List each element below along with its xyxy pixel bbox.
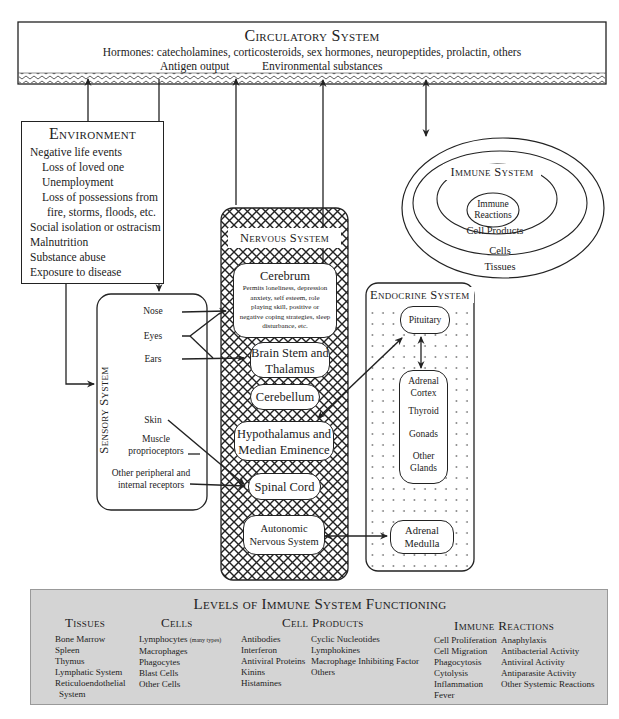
- environment-item: Unemployment: [30, 175, 163, 190]
- pituitary-box: Pituitary: [400, 306, 450, 334]
- column-heading: Tissues: [65, 615, 125, 631]
- list-item: Inflammation: [434, 679, 498, 690]
- levels-column-tissues: Tissues Bone Marrow Spleen Thymus Lympha…: [55, 615, 125, 700]
- environment-item: Negative life events: [30, 145, 163, 160]
- levels-panel: Levels of Immune System Functioning Tiss…: [30, 589, 608, 705]
- gland-thyroid: Thyroid: [400, 405, 447, 428]
- list-item: Other Systemic Reactions: [501, 679, 594, 690]
- environment-title: Environment: [22, 125, 163, 143]
- environment-item: Exposure to disease: [30, 265, 163, 280]
- sensory-muscle: Muscle proprioceptors: [125, 433, 187, 457]
- brain-stem-box: Brain Stem and Thalamus: [250, 342, 330, 378]
- list-item: Lymphocytes: [139, 634, 188, 644]
- immune-core-line2: Reactions: [468, 210, 518, 221]
- levels-title: Levels of Immune System Functioning: [31, 596, 609, 613]
- list-item: Antiviral Activity: [501, 657, 594, 668]
- list-item: Phagocytosis: [434, 657, 498, 668]
- list-item: Macrophage Inhibiting Factor: [311, 656, 419, 667]
- gland-gonads: Gonads: [400, 428, 447, 450]
- cerebellum-box: Cerebellum: [250, 384, 320, 410]
- immune-core-label: Immune Reactions: [468, 199, 518, 221]
- gland-adrenal-cortex: Adrenal Cortex: [400, 375, 447, 405]
- list-item: Thymus: [55, 656, 125, 667]
- list-item: Macrophages: [139, 646, 221, 657]
- sensory-system-title: Sensory System: [96, 350, 112, 470]
- list-item: Cell Proliferation: [434, 635, 498, 646]
- environment-item: Social isolation or ostracism: [30, 220, 163, 235]
- column-heading: Immune Reactions: [454, 618, 609, 634]
- immune-cell-products-label: Cell Products: [445, 224, 545, 237]
- levels-column-cells: Cells Lymphocytes (many types) Macrophag…: [139, 615, 221, 690]
- list-item: Kinins: [241, 667, 305, 678]
- list-item: Reticuloendothelial: [55, 678, 125, 689]
- environment-item: Loss of loved one: [30, 160, 163, 175]
- gland-other: Other Glands: [409, 450, 439, 474]
- immune-system-title: Immune System: [443, 164, 541, 180]
- hypothalamus-box: Hypothalamus and Median Eminence: [234, 421, 334, 461]
- cerebrum-box: Cerebrum Permits loneliness, depression …: [233, 263, 337, 338]
- list-item: Anaphylaxis: [501, 635, 594, 646]
- list-item: Histamines: [241, 678, 305, 689]
- list-item: Interferon: [241, 645, 305, 656]
- list-item: Antibodies: [241, 634, 305, 645]
- levels-column-cell-products: Cell Products Antibodies Interferon Anti…: [241, 615, 441, 689]
- list-item: Bone Marrow: [55, 634, 125, 645]
- sensory-ears: Ears: [128, 353, 178, 365]
- list-item: Fever: [434, 690, 498, 701]
- list-item-note: (many types): [190, 637, 222, 643]
- list-item: Antiparasite Activity: [501, 668, 594, 679]
- environment-item: Substance abuse: [30, 250, 163, 265]
- environmental-substances-label: Environmental substances: [262, 59, 382, 74]
- spinal-cord-box: Spinal Cord: [248, 473, 321, 500]
- sensory-nose: Nose: [128, 305, 178, 317]
- list-item: System: [55, 689, 125, 700]
- levels-column-immune-reactions: Immune Reactions Cell Proliferation Cell…: [434, 618, 609, 701]
- environment-item: Loss of possessions from: [30, 190, 163, 205]
- list-item: Blast Cells: [139, 668, 221, 679]
- list-item: Antibacterial Activity: [501, 646, 594, 657]
- list-item: Lymphokines: [311, 645, 419, 656]
- list-item: Cell Migration: [434, 646, 498, 657]
- list-item: Other Cells: [139, 679, 221, 690]
- immune-core-line1: Immune: [468, 199, 518, 210]
- sensory-other-receptors: Other peripheral and internal receptors: [107, 467, 195, 491]
- circulatory-wave-band: [19, 73, 605, 83]
- column-heading: Cells: [161, 615, 221, 631]
- circulatory-hormones: Hormones: catecholamines, corticosteroid…: [18, 45, 606, 60]
- cerebrum-description: Permits loneliness, depression anxiety, …: [239, 284, 331, 332]
- nervous-system-title: Nervous System: [228, 228, 341, 248]
- sensory-skin: Skin: [128, 414, 178, 426]
- immune-tissues-label: Tissues: [450, 260, 550, 273]
- column-heading: Cell Products: [282, 615, 441, 631]
- list-item: Cyclic Nucleotides: [311, 634, 419, 645]
- list-item: Cytolysis: [434, 668, 498, 679]
- adrenal-medulla-box: Adrenal Medulla: [390, 520, 454, 554]
- cerebrum-title: Cerebrum: [239, 268, 331, 284]
- sensory-eyes: Eyes: [128, 330, 178, 342]
- environment-item: Malnutrition: [30, 235, 163, 250]
- autonomic-nervous-system-box: Autonomic Nervous System: [243, 515, 325, 555]
- list-item: Spleen: [55, 645, 125, 656]
- arrow-environment-to-sensory: [66, 283, 94, 384]
- list-item: Phagocytes: [139, 657, 221, 668]
- environment-box: Environment Negative life events Loss of…: [21, 121, 164, 284]
- immune-cells-label: Cells: [450, 244, 550, 257]
- glands-box: Adrenal Cortex Thyroid Gonads Other Glan…: [399, 370, 448, 484]
- list-item: Antiviral Proteins: [241, 656, 305, 667]
- environment-item: fire, storms, floods, etc.: [30, 205, 163, 220]
- list-item: Lymphatic System: [55, 667, 125, 678]
- antigen-output-label: Antigen output: [160, 59, 229, 74]
- endocrine-system-title: Endocrine System: [370, 287, 474, 303]
- list-item: Others: [311, 667, 419, 678]
- circulatory-title: Circulatory System: [18, 27, 606, 45]
